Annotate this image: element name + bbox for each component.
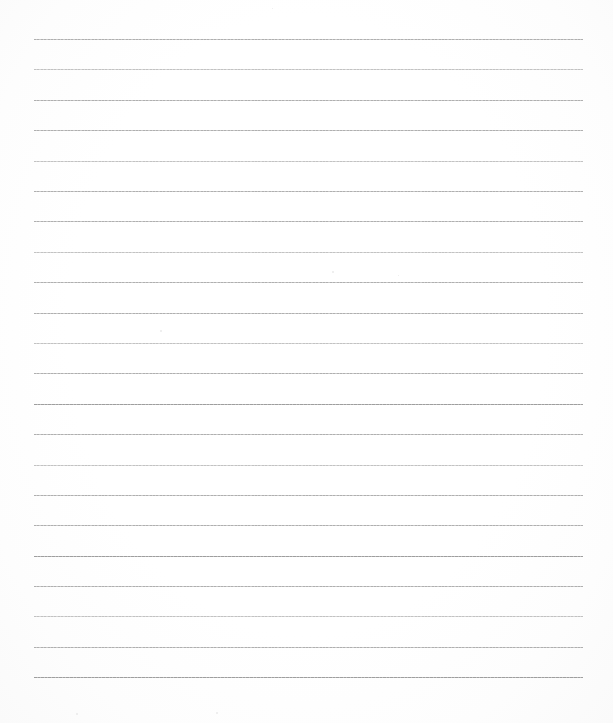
lined-paper-page [0,0,613,723]
scan-speck [76,713,78,715]
scan-speck [216,712,218,714]
scan-speck [272,8,273,9]
writing-area[interactable] [34,39,583,679]
